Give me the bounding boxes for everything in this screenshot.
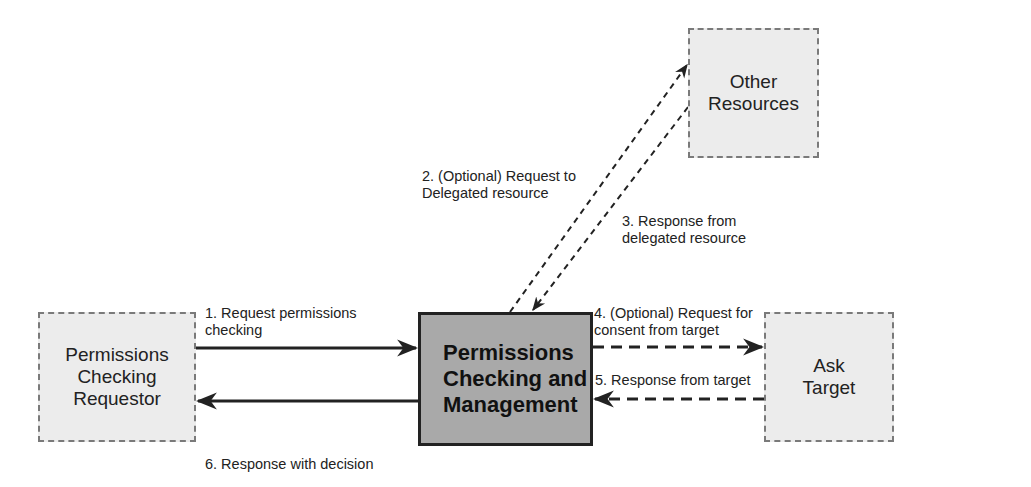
edge-5-label: 5. Response from target (595, 372, 751, 389)
edge-3-label: 3. Response from delegated resource (622, 213, 746, 247)
node-ask-target: Ask Target (764, 312, 894, 442)
edge-2-label: 2. (Optional) Request to Delegated resou… (422, 168, 576, 202)
arrow-3-delegated-response (533, 107, 688, 310)
edge-4-label: 4. (Optional) Request for consent from t… (594, 305, 753, 339)
node-requestor-label: Permissions Checking Requestor (65, 344, 168, 410)
node-requestor: Permissions Checking Requestor (38, 312, 196, 442)
edge-1-label: 1. Request permissions checking (205, 305, 357, 339)
node-permissions-management: Permissions Checking and Management (418, 312, 593, 446)
edge-6-label: 6. Response with decision (205, 456, 373, 473)
node-target-label: Ask Target (803, 355, 856, 399)
node-resources-label: Other Resources (708, 71, 799, 115)
node-main-label: Permissions Checking and Management (443, 340, 587, 418)
node-other-resources: Other Resources (688, 28, 819, 158)
